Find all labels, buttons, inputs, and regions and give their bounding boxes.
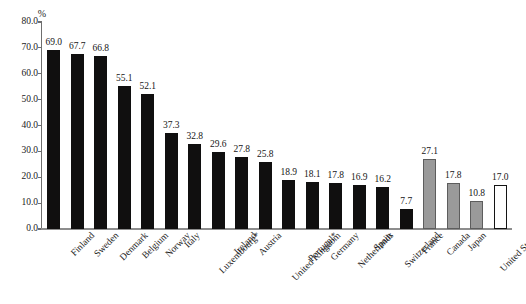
bar-value-label: 69.0 xyxy=(45,38,62,48)
bar xyxy=(423,159,436,229)
bar-group: 17.8 xyxy=(447,22,460,229)
bar-value-label: 25.8 xyxy=(257,150,274,160)
x-axis-label-text: United States xyxy=(499,231,526,274)
bar xyxy=(376,187,389,229)
bar xyxy=(118,86,131,229)
bar-value-label: 37.3 xyxy=(163,121,180,131)
bar-value-label: 29.6 xyxy=(210,140,227,150)
bar xyxy=(353,185,366,229)
bar-value-label: 10.8 xyxy=(468,189,485,199)
bar xyxy=(306,182,319,229)
bar-group: 7.7 xyxy=(400,22,413,229)
bar-group: 10.8 xyxy=(470,22,483,229)
bar-value-label: 55.1 xyxy=(116,74,133,84)
bar-group: 25.8 xyxy=(259,22,272,229)
bar-value-label: 7.7 xyxy=(400,197,412,207)
bar xyxy=(400,209,413,229)
bar xyxy=(47,50,60,229)
bar xyxy=(141,94,154,229)
bar-group: 67.7 xyxy=(71,22,84,229)
bar-value-label: 16.9 xyxy=(351,173,368,183)
bar-group: 17.0 xyxy=(494,22,507,229)
bar-value-label: 52.1 xyxy=(139,82,156,92)
bar xyxy=(470,201,483,229)
bar xyxy=(212,152,225,229)
x-axis-label: France xyxy=(421,231,446,256)
bar-group: 18.1 xyxy=(306,22,319,229)
bar-group: 52.1 xyxy=(141,22,154,229)
bar xyxy=(235,157,248,229)
bar-value-label: 32.8 xyxy=(186,132,203,142)
bar-value-label: 27.8 xyxy=(233,145,250,155)
bar-chart: % 80.070.060.050.040.030.020.010.00.0 69… xyxy=(0,0,526,304)
bar xyxy=(94,56,107,229)
plot-area: 69.067.766.855.152.137.332.829.627.825.8… xyxy=(42,22,512,229)
bar-value-label: 17.8 xyxy=(445,171,462,181)
bar xyxy=(494,185,507,229)
bar xyxy=(165,133,178,230)
bar-value-label: 18.1 xyxy=(304,170,321,180)
x-axis-label: United States xyxy=(499,231,526,274)
bar-group: 27.1 xyxy=(423,22,436,229)
bar-group: 16.9 xyxy=(353,22,366,229)
bar xyxy=(188,144,201,229)
bar-group: 17.8 xyxy=(329,22,342,229)
bar-group: 69.0 xyxy=(47,22,60,229)
bar-value-label: 67.7 xyxy=(69,42,86,52)
bar-value-label: 16.2 xyxy=(374,175,391,185)
bar-group: 66.8 xyxy=(94,22,107,229)
bar-group: 27.8 xyxy=(235,22,248,229)
bar xyxy=(282,180,295,229)
bar-group: 16.2 xyxy=(376,22,389,229)
bar-group: 29.6 xyxy=(212,22,225,229)
bar-group: 18.9 xyxy=(282,22,295,229)
bar-group: 32.8 xyxy=(188,22,201,229)
bar-value-label: 66.8 xyxy=(92,44,109,54)
bar-value-label: 17.0 xyxy=(492,173,509,183)
bar xyxy=(447,183,460,229)
x-axis-label: Finland xyxy=(69,231,96,258)
bar-value-label: 27.1 xyxy=(421,147,438,157)
x-axis-label-text: France xyxy=(421,231,446,256)
x-axis-category-labels: FinlandSwedenDenmarkBelgiumNorwayItalyLu… xyxy=(42,231,512,304)
x-axis-label-text: Finland xyxy=(69,231,96,258)
bar-group: 55.1 xyxy=(118,22,131,229)
bar-value-label: 18.9 xyxy=(280,168,297,178)
bar xyxy=(71,54,84,229)
bar xyxy=(259,162,272,229)
bar-value-label: 17.8 xyxy=(327,171,344,181)
bar xyxy=(329,183,342,229)
bar-group: 37.3 xyxy=(165,22,178,229)
